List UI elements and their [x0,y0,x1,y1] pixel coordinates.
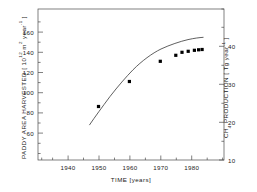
y-axis-title-left-mid: m [20,44,27,52]
data-point [197,48,200,51]
y-axis-title-left-exponent-12: 12 [18,52,23,58]
y-tick-label-right: 40 [228,43,250,50]
y-axis-title-left-suffix: ] [20,16,27,20]
data-point [193,49,196,52]
data-points [97,48,204,108]
x-tick-label: 1950 [86,164,112,171]
data-point [187,50,190,53]
y-axis-title-right: CH4 PRODUCTION [ Tg year-1 ] [222,13,229,163]
y-tick-label-right: 10 [228,157,250,164]
data-point [174,54,177,57]
data-point [159,60,162,63]
data-point [128,80,131,83]
x-axis-title: TIME [years] [38,176,224,183]
y-axis-title-left-exponent-minus1: -1 [18,20,23,25]
y-axis-title-right-suffix: ] [222,37,229,41]
y-tick-label-right: 30 [228,81,250,88]
plot-frame [38,9,224,160]
data-point [180,51,183,54]
x-tick-label: 1980 [179,164,205,171]
x-axis-title-text: TIME [years] [111,176,151,183]
y-axis-title-right-prefix: CH [222,128,229,138]
y-axis-title-left-prefix: PADDY AREA HARVESTED [ 10 [20,58,27,159]
y-axis-title-right-subscript-4: 4 [227,125,232,128]
y-axis-title-left: PADDY AREA HARVESTED [ 1012 m2 year-1 ] [20,13,27,163]
data-point [201,48,204,51]
y-axis-title-right-exponent-minus1: -1 [221,42,226,47]
y-axis-left-ticks [38,22,43,154]
y-axis-title-left-unit: year [20,25,27,41]
y-axis-title-left-exponent-2: 2 [18,41,23,44]
x-axis-ticks [42,156,223,161]
y-axis-title-right-mid: PRODUCTION [ Tg year [222,46,229,125]
data-point [97,105,100,108]
data-curve [89,37,203,125]
x-tick-label: 1940 [55,164,81,171]
x-tick-label: 1960 [117,164,143,171]
chart-page: 160 140 120 100 80 60 40 30 20 10 1940 1… [0,0,257,192]
x-tick-label: 1970 [148,164,174,171]
